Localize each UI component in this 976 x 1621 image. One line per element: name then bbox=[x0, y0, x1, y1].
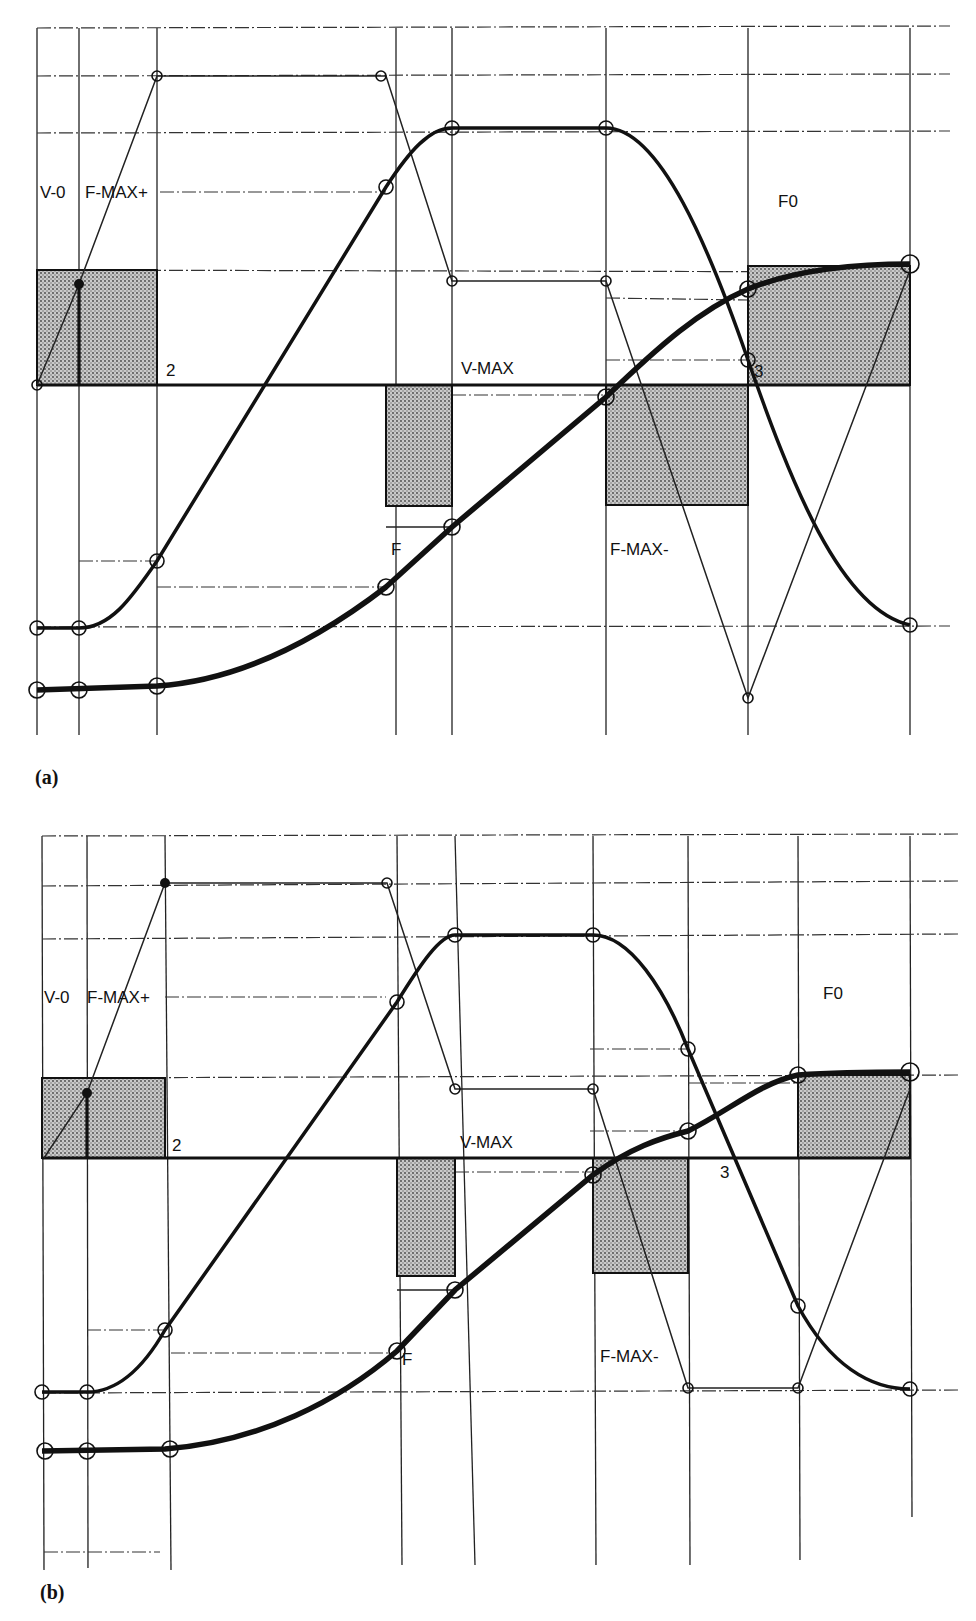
label-f0: F0 bbox=[823, 984, 843, 1003]
label-v0: V-0 bbox=[44, 988, 70, 1007]
label-seg3: 3 bbox=[754, 362, 763, 381]
label-seg2: 2 bbox=[166, 361, 175, 380]
label-fmax-plus: F-MAX+ bbox=[85, 183, 148, 202]
panel-b-velocity-curve bbox=[42, 935, 910, 1392]
panel-b-caption: (b) bbox=[40, 1581, 64, 1604]
panel-a: V-0 F-MAX+ 2 V-MAX F F-MAX- F0 3 bbox=[29, 26, 950, 735]
label-fmax-minus: F-MAX- bbox=[610, 540, 669, 559]
impulse-box bbox=[798, 1075, 910, 1158]
panel-a-force-profile bbox=[37, 76, 910, 698]
label-f: F bbox=[402, 1350, 412, 1369]
impulse-box bbox=[386, 385, 452, 506]
impulse-box bbox=[42, 1078, 165, 1158]
impulse-box bbox=[748, 266, 910, 385]
label-fmax-minus: F-MAX- bbox=[600, 1347, 659, 1366]
impulse-box bbox=[606, 385, 748, 505]
label-f: F bbox=[391, 540, 401, 559]
panel-a-caption: (a) bbox=[35, 766, 58, 789]
label-fmax-plus: F-MAX+ bbox=[87, 988, 150, 1007]
panel-b-grid bbox=[42, 834, 958, 1570]
label-f0: F0 bbox=[778, 192, 798, 211]
label-vmax: V-MAX bbox=[461, 359, 514, 378]
impulse-box bbox=[593, 1158, 688, 1273]
label-seg3: 3 bbox=[720, 1163, 729, 1182]
label-v0: V-0 bbox=[40, 183, 66, 202]
motion-profile-figure: V-0 F-MAX+ 2 V-MAX F F-MAX- F0 3 bbox=[0, 0, 976, 1621]
label-vmax: V-MAX bbox=[460, 1133, 513, 1152]
impulse-box bbox=[37, 270, 157, 385]
panel-b: V-0 F-MAX+ 2 V-MAX F F-MAX- F0 3 bbox=[35, 834, 958, 1570]
label-seg2: 2 bbox=[172, 1136, 181, 1155]
impulse-box bbox=[397, 1158, 455, 1276]
panel-a-markers bbox=[29, 71, 919, 703]
